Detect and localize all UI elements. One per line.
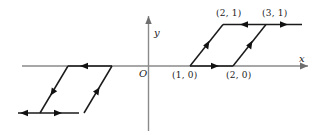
- arrowhead-left-bottom-icon: [20, 110, 28, 116]
- lower-branch-group: [18, 63, 112, 116]
- graph-canvas: [0, 0, 324, 135]
- arrowhead-right-base-icon: [211, 63, 219, 69]
- y-axis-arrowhead-icon: [145, 16, 151, 24]
- point-label-1-0: (1, 0): [172, 71, 197, 80]
- point-label-2-1: (2, 1): [216, 9, 241, 18]
- arrowhead-left-axis-step-icon: [80, 63, 88, 69]
- arrowhead-up-riser-left-icon: [93, 88, 100, 96]
- point-label-2-0: (2, 0): [226, 71, 251, 80]
- graph-figure: y x O (2, 1) (3, 1) (1, 0) (2, 0): [0, 0, 324, 135]
- arrowhead-left-top-inner-icon: [240, 21, 248, 27]
- x-axis-label: x: [299, 54, 305, 64]
- y-axis-label: y: [154, 28, 160, 38]
- upper-branch-group: [190, 21, 302, 69]
- origin-label: O: [139, 69, 147, 79]
- point-label-3-1: (3, 1): [262, 9, 287, 18]
- arrowhead-right-bottom-icon: [54, 110, 62, 116]
- arrowhead-right-top-outer-icon: [280, 21, 288, 27]
